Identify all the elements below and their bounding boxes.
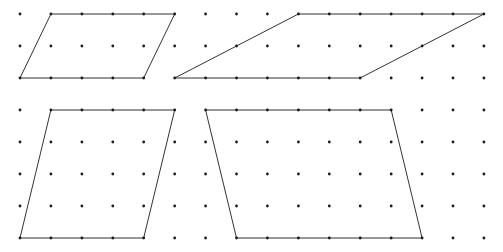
grid-dot	[19, 237, 22, 240]
grid-dot	[328, 237, 331, 240]
grid-dot	[19, 77, 22, 80]
grid-dot	[297, 173, 300, 176]
grid-dot	[266, 109, 269, 112]
grid-dot	[50, 141, 53, 144]
grid-dot	[297, 13, 300, 16]
grid-dot	[266, 13, 269, 16]
grid-dot	[421, 173, 424, 176]
grid-dot	[297, 141, 300, 144]
grid-dot	[390, 13, 393, 16]
grid-dot	[359, 205, 362, 208]
grid-dot	[359, 173, 362, 176]
grid-dot	[421, 45, 424, 48]
grid-dot	[235, 237, 238, 240]
grid-dot	[19, 109, 22, 112]
grid-dot	[390, 205, 393, 208]
parallelogram-top-left	[20, 14, 175, 78]
grid-dot	[111, 173, 114, 176]
grid-dot	[483, 13, 486, 16]
grid-dot	[173, 109, 176, 112]
grid-dot	[50, 13, 53, 16]
grid-dot	[452, 77, 455, 80]
dot-grid	[19, 13, 486, 240]
grid-dot	[483, 77, 486, 80]
grid-dot	[266, 237, 269, 240]
grid-dot	[81, 77, 84, 80]
grid-dot	[452, 237, 455, 240]
grid-dot	[142, 13, 145, 16]
grid-dot	[297, 237, 300, 240]
grid-dot	[173, 173, 176, 176]
grid-dot	[235, 141, 238, 144]
parallelogram-bottom-left	[20, 110, 175, 238]
grid-dot	[390, 109, 393, 112]
parallelogram-group	[20, 14, 484, 238]
grid-dot	[452, 109, 455, 112]
grid-dot	[235, 205, 238, 208]
grid-dot	[235, 77, 238, 80]
grid-dot	[81, 141, 84, 144]
grid-dot	[81, 205, 84, 208]
grid-dot	[50, 77, 53, 80]
grid-dot	[421, 13, 424, 16]
grid-dot	[390, 141, 393, 144]
grid-dot	[483, 173, 486, 176]
grid-dot	[111, 109, 114, 112]
grid-dot	[328, 109, 331, 112]
grid-dot	[452, 13, 455, 16]
grid-dot	[266, 173, 269, 176]
grid-dot	[111, 205, 114, 208]
grid-dot	[50, 205, 53, 208]
grid-dot	[111, 13, 114, 16]
grid-dot	[452, 45, 455, 48]
grid-dot	[483, 237, 486, 240]
grid-dot	[390, 173, 393, 176]
grid-dot	[50, 109, 53, 112]
dot-grid-figure	[0, 0, 503, 252]
grid-dot	[359, 237, 362, 240]
grid-dot	[359, 109, 362, 112]
grid-dot	[19, 205, 22, 208]
grid-dot	[142, 237, 145, 240]
grid-dot	[111, 77, 114, 80]
grid-dot	[19, 45, 22, 48]
grid-dot	[390, 237, 393, 240]
grid-dot	[173, 77, 176, 80]
grid-dot	[483, 205, 486, 208]
grid-dot	[483, 141, 486, 144]
grid-dot	[111, 141, 114, 144]
grid-dot	[204, 173, 207, 176]
grid-dot	[19, 141, 22, 144]
grid-dot	[421, 141, 424, 144]
grid-dot	[328, 77, 331, 80]
grid-dot	[266, 141, 269, 144]
grid-dot	[266, 77, 269, 80]
grid-dot	[421, 237, 424, 240]
grid-dot	[81, 13, 84, 16]
grid-dot	[328, 13, 331, 16]
grid-dot	[235, 45, 238, 48]
grid-dot	[173, 45, 176, 48]
grid-dot	[359, 141, 362, 144]
grid-dot	[266, 205, 269, 208]
grid-dot	[452, 141, 455, 144]
grid-dot	[173, 237, 176, 240]
grid-dot	[235, 13, 238, 16]
parallelogram-bottom-right	[206, 110, 423, 238]
grid-dot	[421, 205, 424, 208]
grid-dot	[111, 237, 114, 240]
grid-dot	[204, 237, 207, 240]
grid-dot	[266, 45, 269, 48]
grid-dot	[81, 237, 84, 240]
grid-dot	[297, 77, 300, 80]
grid-dot	[297, 205, 300, 208]
grid-dot	[483, 109, 486, 112]
grid-dot	[50, 173, 53, 176]
grid-dot	[50, 45, 53, 48]
grid-dot	[204, 141, 207, 144]
grid-dot	[19, 173, 22, 176]
grid-dot	[390, 45, 393, 48]
grid-dot	[81, 109, 84, 112]
grid-dot	[142, 45, 145, 48]
grid-dot	[204, 109, 207, 112]
